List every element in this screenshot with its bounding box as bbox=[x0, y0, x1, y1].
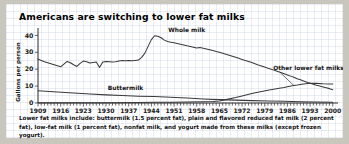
series-line-other-lower-fat-milks bbox=[38, 83, 333, 102]
x-tick-label: 1923 bbox=[75, 107, 92, 114]
chart-footnote: Lower fat milks include: buttermilk (1.5… bbox=[19, 114, 337, 140]
x-tick-label: 1951 bbox=[166, 107, 183, 114]
series-annotations: Whole milkButtermilkOther lower fat milk… bbox=[108, 27, 343, 91]
y-axis-title: Gallons per person bbox=[15, 42, 22, 102]
y-tick-label: 40 bbox=[25, 32, 34, 39]
y-axis: 010203040 bbox=[25, 28, 38, 106]
x-tick-label: 1965 bbox=[211, 107, 228, 114]
x-tick-label: 1958 bbox=[188, 107, 205, 114]
series-label-other-lower-fat-milks: Other lower fat milks bbox=[273, 65, 343, 71]
y-tick-label: 20 bbox=[25, 65, 34, 72]
series-line-whole-milk bbox=[38, 36, 333, 90]
x-tick-label: 1916 bbox=[52, 107, 69, 114]
y-tick-label: 10 bbox=[25, 82, 34, 89]
x-tick-label: 1930 bbox=[98, 107, 115, 114]
chart-card: Americans are switching to lower fat mil… bbox=[6, 4, 343, 138]
x-tick-label: 1944 bbox=[143, 107, 160, 114]
x-tick-label: 1937 bbox=[120, 107, 137, 114]
x-tick-label: 2000 bbox=[324, 107, 341, 114]
series-label-whole-milk: Whole milk bbox=[168, 27, 206, 33]
y-tick-label: 30 bbox=[25, 48, 34, 55]
x-tick-label: 1972 bbox=[234, 107, 251, 114]
series-line-buttermilk bbox=[38, 91, 333, 102]
y-tick-label: 0 bbox=[29, 99, 34, 106]
annotation-leader-line bbox=[280, 72, 294, 86]
x-tick-label: 1909 bbox=[30, 107, 47, 114]
x-tick-label: 1993 bbox=[302, 107, 319, 114]
x-axis: 1909191619231930193719441951195819651972… bbox=[30, 103, 342, 114]
series-label-buttermilk: Buttermilk bbox=[108, 85, 144, 91]
x-tick-label: 1979 bbox=[256, 107, 273, 114]
x-tick-label: 1986 bbox=[279, 107, 296, 114]
